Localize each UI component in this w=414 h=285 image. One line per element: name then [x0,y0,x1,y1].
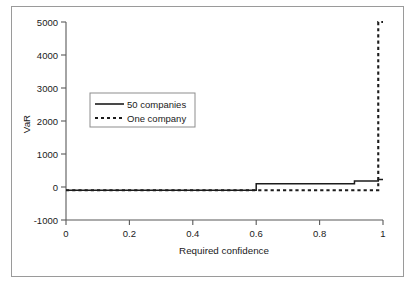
x-tick-label-0-2: 0.2 [123,228,136,239]
x-tick-label-0-6: 0.6 [250,228,263,239]
x-tick-label-0-4: 0.4 [186,228,199,239]
var-vs-confidence-chart: 5000 4000 3000 2000 1000 0 -1000 0 0.2 0… [0,0,414,285]
y-tick-label-2000: 2000 [37,116,58,127]
y-axis-title: VaR [21,115,32,133]
y-tick-label-5000: 5000 [37,17,58,28]
y-axis-tick-labels: 5000 4000 3000 2000 1000 0 -1000 [34,17,58,226]
y-tick-label-3000: 3000 [37,83,58,94]
x-axis-title: Required confidence [179,245,269,256]
x-tick-label-0: 0 [63,228,68,239]
y-tick-label-0: 0 [53,182,58,193]
chart-legend: 50 companies One company [90,93,195,127]
x-axis-ticks [66,220,383,225]
figure-container: 5000 4000 3000 2000 1000 0 -1000 0 0.2 0… [0,0,414,285]
legend-label-50-companies: 50 companies [127,99,186,110]
legend-label-one-company: One company [127,113,186,124]
x-axis-tick-labels: 0 0.2 0.4 0.6 0.8 1 [63,228,385,239]
x-tick-label-1: 1 [380,228,385,239]
y-axis-ticks [61,22,66,220]
y-tick-label-neg1000: -1000 [34,215,58,226]
x-tick-label-0-8: 0.8 [313,228,326,239]
y-tick-label-4000: 4000 [37,50,58,61]
y-tick-label-1000: 1000 [37,149,58,160]
